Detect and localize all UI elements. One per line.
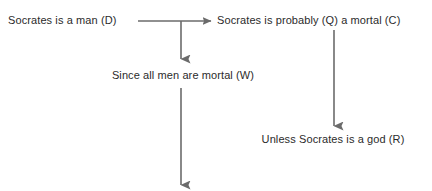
diagram-connectors-layer [0,0,432,191]
argument-map-diagram: Socrates is a man (D) Socrates is probab… [0,0,432,191]
node-warrant: Since all men are mortal (W) [112,69,254,82]
node-premise-data: Socrates is a man (D) [8,14,116,27]
node-conclusion-claim: Socrates is probably (Q) a mortal (C) [217,14,400,27]
node-rebuttal: Unless Socrates is a god (R) [262,133,405,146]
